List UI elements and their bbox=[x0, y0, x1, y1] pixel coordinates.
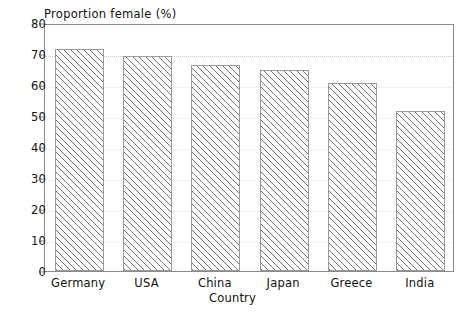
y-axis-tick-label: 70 bbox=[16, 48, 46, 62]
x-axis-tick-label: China bbox=[198, 276, 232, 290]
bar bbox=[55, 49, 104, 271]
x-axis-title: Country bbox=[0, 291, 465, 305]
x-axis-tick-label: Japan bbox=[267, 276, 300, 290]
bar-chart: Proportion female (%) 01020304050607080 … bbox=[0, 0, 465, 315]
x-axis-tick-label: USA bbox=[134, 276, 158, 290]
x-axis-tick-label: India bbox=[405, 276, 434, 290]
bar bbox=[123, 56, 172, 271]
bar bbox=[328, 83, 377, 271]
plot-area bbox=[44, 24, 454, 272]
x-axis-tick-label: Germany bbox=[51, 276, 105, 290]
bar bbox=[191, 65, 240, 271]
x-axis-tick-label: Greece bbox=[330, 276, 372, 290]
bars-group bbox=[45, 25, 453, 271]
y-axis-tick-label: 0 bbox=[16, 265, 46, 279]
y-axis-tick-label: 30 bbox=[16, 172, 46, 186]
y-axis-tick-label: 50 bbox=[16, 110, 46, 124]
chart-title: Proportion female (%) bbox=[44, 7, 177, 21]
y-axis-tick-label: 40 bbox=[16, 141, 46, 155]
bar bbox=[260, 70, 309, 271]
y-axis-tick-label: 20 bbox=[16, 203, 46, 217]
y-axis-tick-label: 60 bbox=[16, 79, 46, 93]
y-axis-tick-label: 10 bbox=[16, 234, 46, 248]
y-axis-tick-label: 80 bbox=[16, 17, 46, 31]
bar bbox=[396, 111, 445, 271]
